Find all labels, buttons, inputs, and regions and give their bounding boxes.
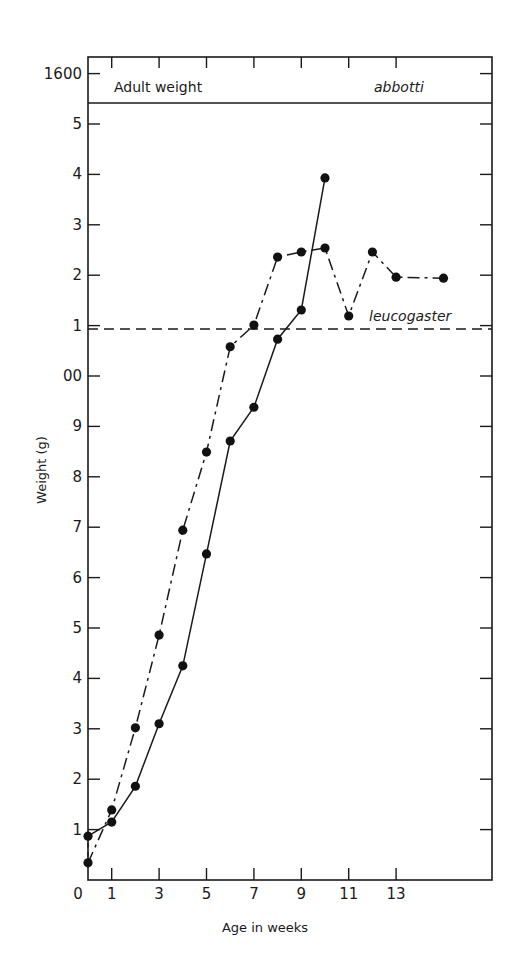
y-tick-label: 6 xyxy=(72,569,82,587)
x-tick-label: 11 xyxy=(339,885,358,903)
y-tick-label: 7 xyxy=(72,518,82,536)
y-tick-label: 5 xyxy=(72,619,82,637)
data-point xyxy=(392,273,401,282)
data-point xyxy=(131,782,140,791)
data-point xyxy=(320,173,329,182)
y-tick-label: 4 xyxy=(72,669,82,687)
x-tick-label: 3 xyxy=(154,885,164,903)
y-tick-label: 4 xyxy=(72,165,82,183)
data-point xyxy=(107,805,116,814)
x-tick-label: 9 xyxy=(297,885,307,903)
data-point xyxy=(249,320,258,329)
growth-chart: 12345678900123451600 0135791113 Adult we… xyxy=(0,0,524,958)
data-point xyxy=(178,526,187,535)
y-tick-label: 3 xyxy=(72,720,82,738)
data-point xyxy=(83,832,92,841)
y-tick-label: 5 xyxy=(72,115,82,133)
y-tick-label: 1 xyxy=(72,821,82,839)
x-tick-label: 5 xyxy=(202,885,212,903)
x-tick-label: 7 xyxy=(249,885,259,903)
x-tick-label: 13 xyxy=(387,885,406,903)
data-point xyxy=(273,252,282,261)
data-point xyxy=(273,335,282,344)
data-point xyxy=(155,719,164,728)
y-tick-label: 1 xyxy=(72,317,82,335)
x-axis-ticks: 0135791113 xyxy=(73,57,405,903)
data-point xyxy=(202,549,211,558)
y-axis-title: Weight (g) xyxy=(34,436,49,504)
y-tick-label: 2 xyxy=(72,266,82,284)
data-point xyxy=(178,661,187,670)
series-layer xyxy=(83,173,448,867)
abbotti-label: abbotti xyxy=(374,79,424,95)
data-point xyxy=(368,247,377,256)
plot-frame xyxy=(88,57,492,880)
y-tick-label: 1600 xyxy=(44,65,82,83)
y-tick-label: 8 xyxy=(72,468,82,486)
series-line-1 xyxy=(88,178,325,836)
data-point xyxy=(131,723,140,732)
data-point xyxy=(249,403,258,412)
data-point xyxy=(107,817,116,826)
data-point xyxy=(226,436,235,445)
data-point xyxy=(83,858,92,867)
data-point xyxy=(226,342,235,351)
adult-weight-label: Adult weight xyxy=(114,79,203,95)
data-point xyxy=(297,305,306,314)
y-tick-label: 00 xyxy=(63,367,82,385)
data-point xyxy=(297,247,306,256)
data-point xyxy=(202,448,211,457)
data-point xyxy=(344,311,353,320)
data-point xyxy=(439,274,448,283)
data-point xyxy=(155,630,164,639)
x-tick-label: 1 xyxy=(107,885,117,903)
x-tick-label: 0 xyxy=(73,885,83,903)
y-axis-ticks: 12345678900123451600 xyxy=(44,65,492,839)
y-tick-label: 9 xyxy=(72,417,82,435)
x-axis-title: Age in weeks xyxy=(222,920,308,935)
y-tick-label: 2 xyxy=(72,770,82,788)
data-point xyxy=(320,243,329,252)
y-tick-label: 3 xyxy=(72,216,82,234)
leucogaster-label: leucogaster xyxy=(369,308,453,324)
